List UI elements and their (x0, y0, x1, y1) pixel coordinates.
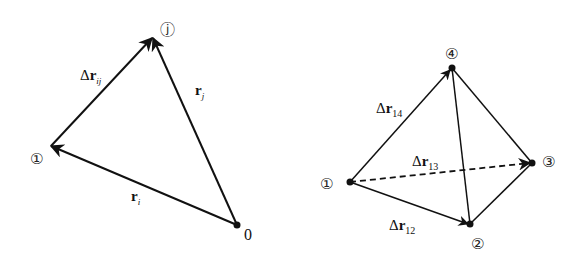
left-triangle-diagram: ① ⓙ 0 Δrij rj ri (30, 21, 252, 243)
node-label-3: ③ (542, 153, 555, 171)
vertex-1 (347, 179, 354, 186)
vertex-2 (467, 221, 474, 228)
edge-2-3 (470, 163, 532, 224)
node-label-1: ① (320, 175, 333, 193)
edge-4-3 (452, 68, 532, 163)
origin-label: 0 (244, 226, 252, 243)
vector-delta-r-13-arrow (350, 163, 530, 182)
vector-delta-r-12-arrow (350, 182, 468, 224)
label-r-i: ri (131, 188, 141, 207)
node-label-j: ⓙ (160, 21, 175, 39)
node-label-2: ② (471, 235, 484, 253)
label-delta-r-14: Δr14 (376, 100, 402, 119)
origin-point (234, 222, 241, 229)
label-delta-r-ij: Δrij (80, 67, 102, 86)
right-tetrahedron-diagram: ① ② ③ ④ Δr14 Δr13 Δr12 (320, 45, 555, 253)
edge-4-2 (452, 68, 470, 224)
vector-diagrams: ① ⓙ 0 Δrij rj ri ① ② ③ ④ Δr14 (0, 0, 583, 268)
vector-delta-r-ij-arrow (51, 38, 152, 146)
label-delta-r-12: Δr12 (389, 217, 415, 236)
vector-r-i-arrow (51, 146, 237, 225)
node-label-i: ① (30, 150, 43, 168)
vertex-4 (449, 65, 456, 72)
vector-r-j-arrow (153, 38, 237, 225)
label-r-j: rj (195, 82, 205, 101)
vertex-3 (529, 160, 536, 167)
node-label-4: ④ (445, 45, 458, 63)
label-delta-r-13: Δr13 (412, 153, 438, 172)
